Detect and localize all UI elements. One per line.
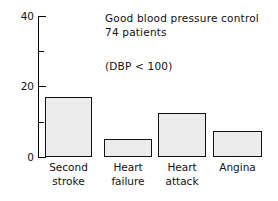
x-label-heart-attack-line1: Heart — [167, 161, 196, 173]
x-label-heart-failure-line1: Heart — [113, 161, 142, 173]
bar-angina — [213, 131, 262, 157]
x-label-second-stroke-line2: stroke — [45, 175, 92, 189]
x-label-angina: Angina — [213, 161, 262, 175]
x-label-heart-attack-line2: attack — [158, 175, 206, 189]
bar-heart-attack — [158, 113, 206, 157]
bar-second-stroke — [45, 97, 92, 157]
x-label-heart-attack: Heart attack — [158, 161, 206, 188]
x-label-angina-line1: Angina — [219, 161, 256, 173]
bar-chart-figure: Good blood pressure control 74 patients … — [0, 0, 278, 201]
x-label-second-stroke-line1: Second — [49, 161, 88, 173]
x-label-heart-failure-line2: failure — [104, 175, 152, 189]
bar-heart-failure — [104, 139, 152, 157]
x-label-second-stroke: Second stroke — [45, 161, 92, 188]
x-label-heart-failure: Heart failure — [104, 161, 152, 188]
